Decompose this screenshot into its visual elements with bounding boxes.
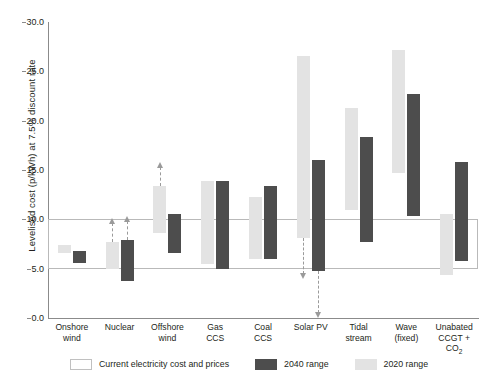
range-bar: [168, 214, 181, 252]
x-axis-category-label: CoalCCS: [254, 322, 272, 343]
range-bar: [312, 160, 325, 271]
y-axis-tick-label: 20.0: [26, 116, 44, 126]
legend-swatch: [255, 359, 277, 370]
y-axis-tick-label: 0.0: [31, 313, 44, 323]
legend-item[interactable]: Current electricity cost and prices: [70, 359, 229, 370]
y-axis-tick-label: 30.0: [26, 17, 44, 27]
range-bar: [455, 162, 468, 261]
range-bar: [249, 197, 262, 259]
x-axis-category-label: Tidalstream: [345, 322, 371, 343]
legend-label: 2040 range: [284, 359, 329, 369]
x-axis-category-label: GasCCS: [206, 322, 224, 343]
y-axis-tick-label: 15.0: [26, 165, 44, 175]
trend-arrow-up-icon: [127, 221, 128, 240]
chart-legend: Current electricity cost and prices2040 …: [70, 352, 470, 376]
range-bar: [201, 181, 214, 264]
x-axis-category-label: Nuclear: [105, 322, 135, 333]
range-bar: [73, 251, 86, 263]
y-axis-tick-label: 10.0: [26, 214, 44, 224]
legend-swatch: [355, 359, 377, 370]
x-axis-category-label: Offshorewind: [151, 322, 184, 343]
range-bar: [106, 242, 119, 269]
range-bar: [153, 186, 166, 233]
legend-label: 2020 range: [384, 359, 429, 369]
legend-label: Current electricity cost and prices: [99, 359, 229, 369]
trend-arrow-up-icon: [160, 167, 161, 186]
y-axis-tick-label: 5.0: [31, 264, 44, 274]
range-bar: [345, 108, 358, 211]
range-bar: [440, 214, 453, 274]
range-bar: [216, 181, 229, 269]
range-bar: [121, 240, 134, 280]
x-axis-category-label: Wave(fixed): [394, 322, 418, 343]
range-bar: [407, 94, 420, 216]
trend-arrow-down-icon: [318, 271, 319, 313]
chart-container: Levelised cost (p/kWh) at 7.5% discount …: [0, 0, 491, 385]
range-bar: [360, 137, 373, 242]
legend-item[interactable]: 2020 range: [355, 359, 429, 370]
trend-arrow-up-icon: [112, 223, 113, 242]
trend-arrow-down-icon: [303, 238, 304, 274]
x-axis-line: [48, 318, 479, 319]
plot-area: 0.05.010.015.020.025.030.0: [48, 22, 478, 318]
legend-item[interactable]: 2040 range: [255, 359, 329, 370]
range-bar: [58, 245, 71, 253]
legend-swatch: [70, 359, 92, 370]
range-bar: [392, 50, 405, 173]
y-axis-tick-label: 25.0: [26, 66, 44, 76]
x-axis-category-label: Solar PV: [294, 322, 328, 333]
range-bar: [297, 56, 310, 239]
range-bar: [264, 186, 277, 259]
x-axis-category-label: Onshorewind: [55, 322, 88, 343]
